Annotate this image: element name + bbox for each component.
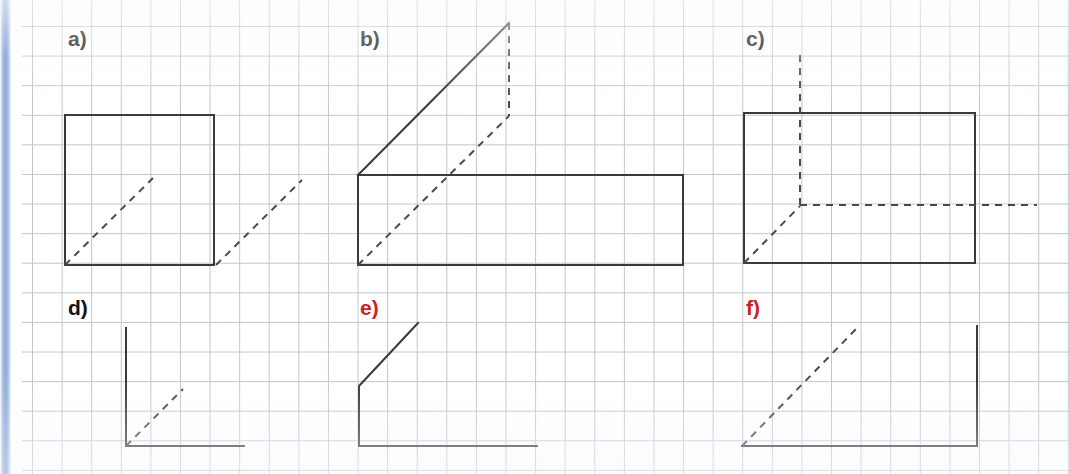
figure-a — [65, 115, 302, 265]
figure-f-solid-path-0 — [742, 326, 977, 446]
figure-drawing-layer — [0, 0, 1069, 474]
figure-a-dashed-path-0 — [65, 178, 153, 265]
figure-d-solid-path-0 — [126, 328, 244, 446]
figure-b-dashed-path-1 — [358, 116, 509, 265]
figure-e — [359, 323, 537, 446]
figure-d-dashed-path-0 — [126, 389, 183, 446]
figure-label-b: b) — [360, 28, 380, 49]
figure-b-solid-path-0 — [358, 175, 683, 265]
figure-label-c: c) — [746, 28, 765, 49]
figure-label-d: d) — [68, 297, 88, 318]
figure-label-f: f) — [746, 297, 760, 318]
figure-c-dashed-path-2 — [744, 206, 800, 263]
figure-label-a: a) — [68, 28, 87, 49]
figure-d — [126, 328, 244, 446]
figure-a-dashed-path-1 — [216, 180, 302, 265]
figure-c — [744, 55, 1037, 263]
figure-b — [358, 23, 683, 265]
worksheet-page: a)b)c)d)e)f) — [0, 0, 1069, 474]
figure-f — [742, 326, 977, 446]
figure-e-solid-path-0 — [359, 323, 537, 446]
figure-label-e: e) — [360, 297, 379, 318]
figure-f-dashed-path-0 — [742, 327, 858, 446]
figure-c-solid-path-0 — [744, 113, 975, 263]
figure-b-solid-path-1 — [358, 23, 509, 175]
